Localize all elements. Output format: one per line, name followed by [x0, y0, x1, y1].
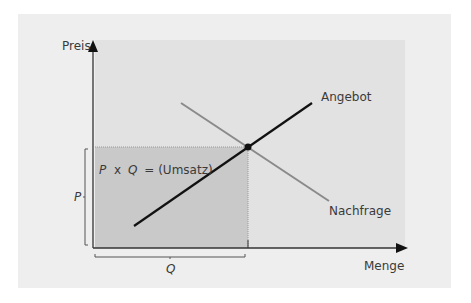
supply-demand-diagram: Preis Menge Angebot Nachfrage P x Q = (U…	[0, 0, 471, 303]
brace-p-label: P	[74, 190, 82, 204]
revenue-label-rest: = (Umsatz)	[144, 163, 212, 177]
y-axis-label: Preis	[62, 39, 91, 53]
x-axis-label: Menge	[364, 259, 404, 273]
revenue-label-q: Q	[128, 163, 137, 177]
revenue-label-x: x	[114, 163, 121, 177]
supply-label: Angebot	[321, 90, 372, 104]
revenue-label: P x Q = (Umsatz)	[99, 163, 213, 177]
brace-q-label: Q	[166, 262, 175, 276]
revenue-label-p: P	[99, 163, 107, 177]
equilibrium-point	[245, 144, 252, 151]
demand-label: Nachfrage	[329, 204, 391, 218]
